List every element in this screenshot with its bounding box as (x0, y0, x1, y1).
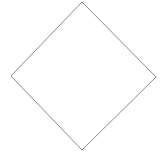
drawing-canvas (0, 0, 166, 155)
diamond-shape-svg (0, 0, 166, 155)
diamond-icon (11, 2, 156, 150)
